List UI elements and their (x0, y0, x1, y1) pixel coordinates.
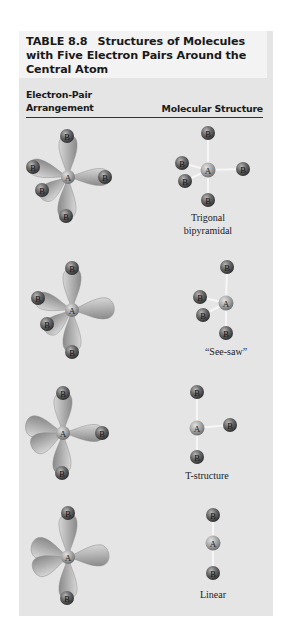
svg-text:A: A (69, 306, 76, 316)
caption-row1-line1: Trigonal (168, 211, 248, 224)
svg-text:B: B (99, 429, 105, 439)
svg-text:B: B (205, 196, 211, 206)
electron-pair-row4: A B B (28, 506, 109, 605)
svg-text:B: B (102, 173, 108, 183)
svg-text:B: B (210, 569, 216, 579)
svg-text:B: B (194, 388, 200, 398)
svg-text:A: A (65, 553, 72, 563)
caption-row3: T-structure (167, 469, 247, 482)
caption-row4: Linear (173, 588, 253, 601)
svg-text:A: A (223, 299, 230, 309)
svg-text:A: A (60, 429, 67, 439)
svg-text:B: B (210, 511, 216, 521)
svg-text:B: B (200, 311, 206, 321)
svg-text:B: B (194, 453, 200, 463)
svg-text:B: B (227, 421, 233, 431)
caption-row1: Trigonal bipyramidal (168, 211, 248, 237)
svg-text:B: B (39, 186, 45, 196)
caption-row1-line2: bipyramidal (168, 224, 248, 237)
svg-text:B: B (65, 509, 71, 519)
svg-text:B: B (35, 294, 41, 304)
caption-row2: “See-saw” (186, 345, 266, 358)
svg-text:B: B (64, 594, 70, 604)
svg-text:A: A (65, 173, 72, 183)
svg-text:B: B (182, 177, 188, 187)
svg-text:A: A (194, 424, 201, 434)
svg-text:B: B (224, 263, 230, 273)
svg-text:B: B (60, 389, 66, 399)
electron-pair-row1: A B B B B B (26, 129, 112, 223)
svg-text:A: A (205, 166, 212, 176)
svg-text:B: B (30, 163, 36, 173)
svg-text:B: B (59, 469, 65, 479)
svg-text:B: B (63, 212, 69, 222)
electron-pair-row2: A B B B B (31, 261, 115, 359)
electron-pair-row3: A B B B (23, 386, 109, 480)
svg-text:B: B (240, 165, 246, 175)
svg-text:B: B (64, 132, 70, 142)
svg-text:A: A (210, 539, 217, 549)
svg-text:B: B (179, 159, 185, 169)
svg-text:B: B (69, 264, 75, 274)
svg-text:B: B (223, 329, 229, 339)
svg-text:B: B (69, 348, 75, 358)
svg-text:B: B (44, 320, 50, 330)
molecule-diagrams: A B B B B B A B B B B B A B B B B (0, 0, 283, 640)
svg-text:B: B (205, 129, 211, 139)
svg-text:B: B (197, 293, 203, 303)
